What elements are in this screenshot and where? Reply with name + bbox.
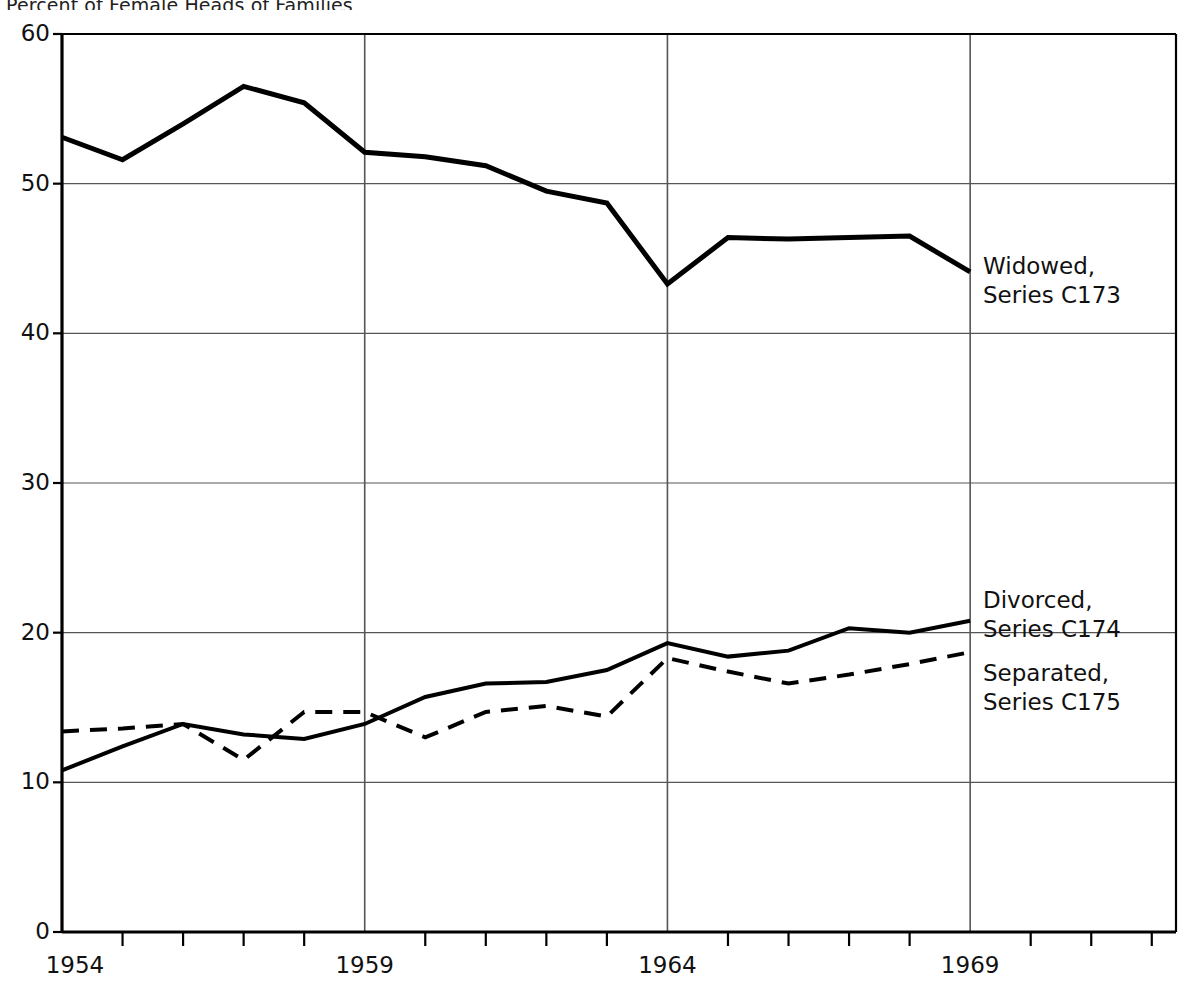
series-label-widowed: Widowed,Series C173 [983,252,1121,311]
y-tick-label-30: 30 [2,471,50,494]
y-tick-label-10: 10 [2,770,50,793]
series-line-1 [62,621,970,771]
series-line-2 [62,652,970,760]
y-tick-label-50: 50 [2,172,50,195]
plot-area [0,0,1193,1004]
x-tick-label-1969: 1969 [915,954,1025,977]
y-tick-label-20: 20 [2,621,50,644]
series-label-separated-line1: Separated, [983,660,1109,686]
series-line-0 [62,86,970,284]
x-tick-label-1954: 1954 [20,954,130,977]
data-series [62,86,970,770]
gridlines [62,34,1176,932]
series-label-widowed-line1: Widowed, [983,253,1095,279]
chart-figure: Percent of Female Heads of Families 6050… [0,0,1193,1004]
series-label-separated-line2: Series C175 [983,689,1121,715]
axis-ticks [53,34,1152,946]
series-label-separated: Separated,Series C175 [983,659,1121,718]
series-label-divorced-line1: Divorced, [983,587,1092,613]
y-tick-label-60: 60 [2,22,50,45]
y-tick-label-40: 40 [2,321,50,344]
x-tick-label-1959: 1959 [310,954,420,977]
y-tick-label-0: 0 [2,920,50,943]
series-label-divorced-line2: Series C174 [983,616,1121,642]
x-tick-label-1964: 1964 [612,954,722,977]
series-label-widowed-line2: Series C173 [983,282,1121,308]
series-label-divorced: Divorced,Series C174 [983,586,1121,645]
